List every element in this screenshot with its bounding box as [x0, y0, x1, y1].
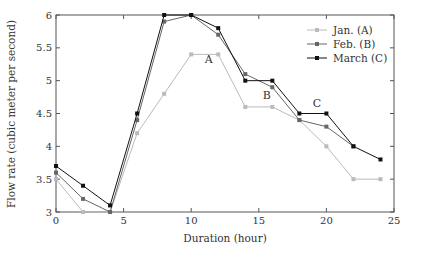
x-tick-label: 0	[53, 215, 59, 226]
data-point-marker	[297, 118, 301, 122]
y-tick-label: 3	[46, 207, 52, 218]
y-tick-label: 5	[46, 75, 52, 86]
data-point-marker	[162, 92, 166, 96]
data-point-marker	[108, 210, 112, 214]
data-point-marker	[378, 177, 382, 181]
x-axis-label: Duration (hour)	[183, 232, 267, 244]
data-point-marker	[297, 112, 301, 116]
chart-canvas: 051015202533.544.555.56 ABC Jan. (A)Feb.…	[0, 0, 421, 253]
data-point-marker	[54, 177, 58, 181]
data-point-marker	[243, 79, 247, 83]
data-point-marker	[216, 52, 220, 56]
data-point-marker	[243, 72, 247, 76]
annotation-label: C	[313, 97, 321, 110]
x-tick-label: 5	[120, 215, 126, 226]
y-tick-label: 4.5	[36, 108, 52, 119]
data-point-marker	[243, 105, 247, 109]
data-point-marker	[135, 131, 139, 135]
data-point-marker	[162, 13, 166, 17]
data-point-marker	[54, 171, 58, 175]
legend: Jan. (A)Feb. (B)March (C)	[307, 24, 387, 64]
data-point-marker	[378, 157, 382, 161]
data-point-marker	[216, 26, 220, 30]
data-point-marker	[270, 79, 274, 83]
data-point-marker	[189, 13, 193, 17]
data-point-marker	[324, 112, 328, 116]
data-point-marker	[189, 52, 193, 56]
annotation-label: B	[263, 89, 271, 102]
x-tick-label: 10	[185, 215, 198, 226]
x-tick-label: 15	[252, 215, 265, 226]
data-point-marker	[81, 184, 85, 188]
data-point-marker	[324, 144, 328, 148]
data-point-marker	[54, 164, 58, 168]
y-tick-label: 5.5	[36, 42, 52, 53]
data-point-marker	[135, 112, 139, 116]
legend-label: March (C)	[333, 52, 387, 64]
legend-marker	[315, 28, 319, 32]
legend-marker	[315, 42, 319, 46]
series-line-0	[56, 54, 380, 212]
x-tick-label: 20	[320, 215, 333, 226]
x-tick-label: 25	[388, 215, 401, 226]
data-point-marker	[270, 105, 274, 109]
legend-label: Feb. (B)	[333, 38, 375, 50]
data-point-marker	[324, 125, 328, 129]
annotation-label: A	[204, 53, 214, 66]
data-point-marker	[351, 144, 355, 148]
data-point-marker	[81, 210, 85, 214]
legend-label: Jan. (A)	[332, 24, 373, 36]
data-point-marker	[216, 33, 220, 37]
series-line-2	[56, 15, 380, 205]
data-point-marker	[108, 203, 112, 207]
y-axis-label: Flow rate (cubic meter per second)	[5, 20, 17, 208]
data-point-marker	[81, 197, 85, 201]
flow-rate-chart: 051015202533.544.555.56 ABC Jan. (A)Feb.…	[0, 0, 421, 253]
legend-marker	[315, 56, 319, 60]
y-tick-label: 6	[46, 10, 52, 21]
y-tick-label: 3.5	[36, 174, 52, 185]
data-point-marker	[351, 177, 355, 181]
y-tick-label: 4	[46, 141, 52, 152]
